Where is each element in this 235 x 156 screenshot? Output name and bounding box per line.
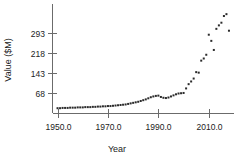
data-point bbox=[205, 54, 207, 56]
data-point bbox=[178, 93, 180, 95]
data-point bbox=[150, 96, 152, 98]
y-tick-label: 143 bbox=[31, 69, 45, 79]
data-point bbox=[137, 101, 139, 103]
data-point bbox=[193, 78, 195, 80]
data-point bbox=[157, 95, 159, 97]
data-point bbox=[84, 106, 86, 108]
data-point bbox=[57, 107, 59, 109]
data-point bbox=[97, 106, 99, 108]
data-point bbox=[203, 58, 205, 60]
x-tick-label: 1970.0 bbox=[96, 122, 122, 132]
data-point bbox=[140, 100, 142, 102]
data-point bbox=[67, 107, 69, 109]
data-point bbox=[215, 28, 217, 30]
data-point bbox=[147, 97, 149, 99]
data-point bbox=[74, 107, 76, 109]
data-point bbox=[208, 34, 210, 36]
data-point bbox=[122, 104, 124, 106]
data-point bbox=[72, 107, 74, 109]
data-point bbox=[69, 107, 71, 109]
data-point bbox=[170, 95, 172, 97]
scatter-chart: 68143218293 1950.01970.01990.02010.0 Yea… bbox=[0, 0, 235, 156]
data-point bbox=[125, 103, 127, 105]
data-point bbox=[104, 105, 106, 107]
x-tick-label: 2010.0 bbox=[197, 122, 223, 132]
data-point bbox=[64, 107, 66, 109]
data-point bbox=[79, 106, 81, 108]
data-point bbox=[102, 105, 104, 107]
data-point bbox=[198, 72, 200, 74]
data-point bbox=[115, 105, 117, 107]
x-axis-title: Year bbox=[108, 144, 126, 154]
data-point bbox=[62, 107, 64, 109]
data-point bbox=[152, 95, 154, 97]
data-point bbox=[220, 22, 222, 24]
data-point bbox=[99, 106, 101, 108]
data-points bbox=[57, 13, 230, 109]
data-point bbox=[160, 96, 162, 98]
y-axis-title: Value ($M) bbox=[3, 38, 13, 81]
data-point bbox=[200, 60, 202, 62]
data-point bbox=[142, 99, 144, 101]
data-point bbox=[165, 97, 167, 99]
data-point bbox=[120, 104, 122, 106]
data-point bbox=[213, 49, 215, 51]
x-tick-label: 1990.0 bbox=[146, 122, 172, 132]
data-point bbox=[188, 83, 190, 85]
data-point bbox=[173, 94, 175, 96]
data-point bbox=[223, 15, 225, 17]
data-point bbox=[135, 101, 137, 103]
data-point bbox=[77, 106, 79, 108]
data-point bbox=[210, 40, 212, 42]
data-point bbox=[175, 93, 177, 95]
data-point bbox=[107, 105, 109, 107]
data-point bbox=[185, 87, 187, 89]
y-axis-ticks: 68143218293 bbox=[31, 29, 57, 99]
data-point bbox=[155, 95, 157, 97]
data-point bbox=[87, 106, 89, 108]
data-point bbox=[92, 106, 94, 108]
data-point bbox=[127, 103, 129, 105]
data-point bbox=[82, 106, 84, 108]
data-point bbox=[218, 24, 220, 26]
chart-canvas: 68143218293 1950.01970.01990.02010.0 Yea… bbox=[0, 0, 235, 156]
data-point bbox=[180, 92, 182, 94]
data-point bbox=[130, 102, 132, 104]
data-point bbox=[59, 107, 61, 109]
data-point bbox=[112, 105, 114, 107]
data-point bbox=[195, 71, 197, 73]
data-point bbox=[190, 80, 192, 82]
data-point bbox=[117, 104, 119, 106]
data-point bbox=[94, 106, 96, 108]
data-point bbox=[145, 98, 147, 100]
y-tick-label: 293 bbox=[31, 29, 45, 39]
data-point bbox=[183, 92, 185, 94]
data-point bbox=[228, 30, 230, 32]
data-point bbox=[89, 106, 91, 108]
x-axis-ticks: 1950.01970.01990.02010.0 bbox=[46, 109, 223, 132]
y-tick-label: 218 bbox=[31, 49, 45, 59]
data-point bbox=[109, 105, 111, 107]
data-point bbox=[167, 97, 169, 99]
x-tick-label: 1950.0 bbox=[46, 122, 72, 132]
y-tick-label: 68 bbox=[36, 89, 46, 99]
data-point bbox=[132, 102, 134, 104]
data-point bbox=[162, 97, 164, 99]
data-point bbox=[225, 13, 227, 15]
